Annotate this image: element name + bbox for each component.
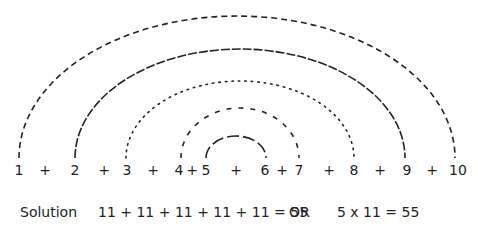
number-7: 7	[295, 161, 304, 179]
number-3: 3	[123, 161, 132, 179]
number-9: 9	[403, 161, 412, 179]
number-2: 2	[71, 161, 80, 179]
solution-label: Solution	[20, 203, 77, 221]
plus-sign: +	[230, 161, 242, 179]
number-6: 6	[261, 161, 270, 179]
arc-5-6	[206, 136, 266, 158]
pairing-arcs	[0, 0, 478, 231]
plus-sign: +	[323, 161, 335, 179]
plus-sign: +	[186, 161, 198, 179]
plus-sign: +	[276, 161, 288, 179]
arc-4-7	[181, 108, 299, 158]
plus-sign: +	[98, 161, 110, 179]
solution-alternative: 5 x 11 = 55	[337, 203, 419, 221]
number-8: 8	[350, 161, 359, 179]
solution-expression: 11 + 11 + 11 + 11 + 11 = 55	[98, 203, 308, 221]
number-5: 5	[202, 161, 211, 179]
arc-2-9	[75, 49, 405, 158]
arc-3-8	[126, 81, 354, 158]
number-4: 4	[175, 161, 184, 179]
number-10: 10	[449, 161, 467, 179]
plus-sign: +	[39, 161, 51, 179]
plus-sign: +	[374, 161, 386, 179]
plus-sign: +	[147, 161, 159, 179]
or-label: OR	[289, 203, 310, 221]
number-1: 1	[15, 161, 24, 179]
plus-sign: +	[426, 161, 438, 179]
